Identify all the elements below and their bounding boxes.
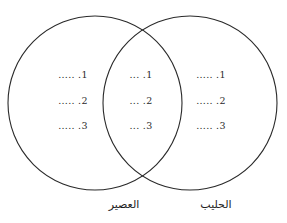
list-item[interactable]: 2. .....	[196, 95, 226, 106]
list-item[interactable]: 1. .....	[196, 69, 226, 80]
list-item[interactable]: 3. .....	[196, 120, 226, 131]
list-item[interactable]: 1. .....	[58, 69, 88, 80]
right-set-label: الحليب	[188, 198, 244, 211]
right-region-entries: 1. ..... 2. ..... 3. .....	[180, 69, 242, 131]
intersection-region-entries: 1. ... 2. ... 3. ...	[115, 69, 167, 131]
left-region-entries: 1. ..... 2. ..... 3. .....	[42, 69, 104, 131]
list-item[interactable]: 2. ...	[130, 95, 153, 106]
venn-diagram: 1. ..... 2. ..... 3. ..... 1. ... 2. ...…	[0, 0, 287, 223]
list-item[interactable]: 3. .....	[58, 120, 88, 131]
list-item[interactable]: 1. ...	[130, 69, 153, 80]
list-item[interactable]: 3. ...	[130, 120, 153, 131]
list-item[interactable]: 2. .....	[58, 95, 88, 106]
left-set-label: العصير	[96, 198, 152, 211]
